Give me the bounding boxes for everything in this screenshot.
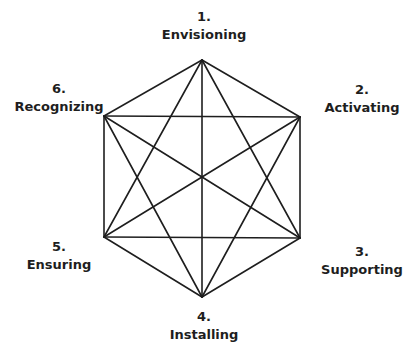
node-number: 4. — [170, 308, 239, 326]
edge-1-5 — [104, 60, 202, 237]
edge-3-4 — [202, 238, 300, 297]
hexagon-diagram — [0, 0, 410, 360]
node-number: 3. — [321, 243, 403, 261]
edge-1-2 — [202, 60, 300, 117]
node-label-recognizing: 6.Recognizing — [14, 80, 103, 116]
edge-1-3 — [202, 60, 300, 238]
node-label-installing: 4.Installing — [170, 308, 239, 344]
node-name: Activating — [325, 99, 400, 117]
node-label-activating: 2.Activating — [325, 81, 400, 117]
node-name: Installing — [170, 326, 239, 344]
edge-3-5 — [104, 237, 300, 238]
connection-lines — [104, 60, 300, 297]
node-label-supporting: 3.Supporting — [321, 243, 403, 279]
edge-4-6 — [104, 116, 202, 297]
node-label-envisioning: 1.Envisioning — [162, 8, 246, 44]
node-label-ensuring: 5.Ensuring — [27, 238, 92, 274]
node-name: Recognizing — [14, 98, 103, 116]
node-number: 2. — [325, 81, 400, 99]
node-number: 5. — [27, 238, 92, 256]
node-name: Envisioning — [162, 26, 246, 44]
node-name: Ensuring — [27, 256, 92, 274]
node-name: Supporting — [321, 261, 403, 279]
edge-2-6 — [104, 116, 300, 117]
node-number: 6. — [14, 80, 103, 98]
edge-4-5 — [104, 237, 202, 297]
node-number: 1. — [162, 8, 246, 26]
